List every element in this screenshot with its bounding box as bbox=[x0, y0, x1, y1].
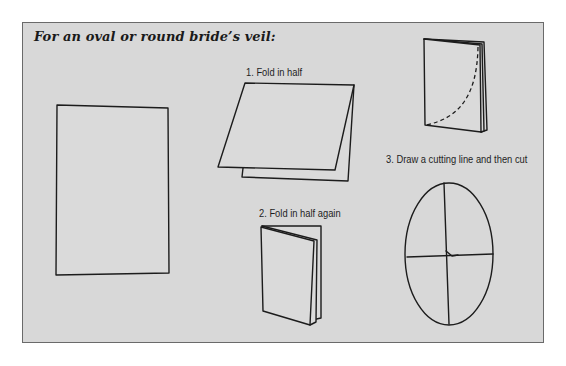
oval-veil-icon bbox=[405, 183, 493, 325]
folded-in-half-icon bbox=[218, 83, 354, 181]
unfolded-fabric-icon bbox=[56, 105, 169, 275]
folded-quarter-icon bbox=[261, 226, 321, 325]
diagram-illustrations bbox=[0, 0, 566, 366]
cutting-line-fold-icon bbox=[424, 39, 487, 132]
